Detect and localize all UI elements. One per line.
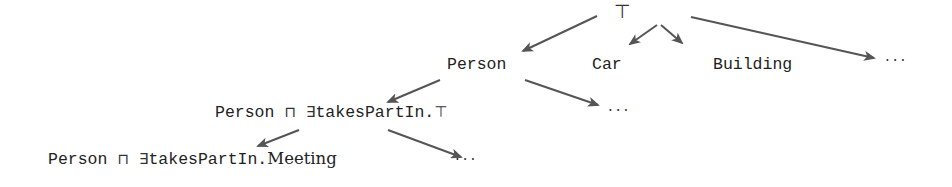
node-person: Person <box>447 57 506 74</box>
refinement-tree-diagram: ⊤ Person Car Building ··· Person ⊓ ∃take… <box>0 0 952 187</box>
edge-top-to-car <box>630 25 657 44</box>
edge-person-to-ellipsis <box>525 80 598 105</box>
concept-person: Person <box>48 150 107 169</box>
edge-exists-top-to-meeting <box>258 130 299 146</box>
sqcap-symbol: ⊓ <box>117 150 129 168</box>
concept-person: Person <box>215 103 274 122</box>
top-symbol: ⊤ <box>434 103 447 121</box>
node-person-exists-takespartin-top: Person ⊓ ∃takesPartIn.⊤ <box>215 105 447 122</box>
edge-person-to-exists-top <box>388 80 440 102</box>
role-takespartin: takesPartIn. <box>315 103 434 122</box>
exists-symbol: ∃ <box>139 150 148 168</box>
top-concept-node: ⊤ <box>614 2 631 21</box>
edge-exists-top-to-ellipsis <box>388 130 461 157</box>
edge-top-to-ellipsis <box>691 17 874 58</box>
role-takespartin: takesPartIn. <box>148 150 267 169</box>
node-ellipsis-level3: ··· <box>455 153 478 168</box>
node-car: Car <box>592 57 622 74</box>
node-ellipsis-level2: ··· <box>608 104 631 119</box>
sqcap-symbol: ⊓ <box>284 103 296 121</box>
edge-top-to-person <box>523 16 597 51</box>
edge-top-to-building <box>661 25 682 43</box>
concept-meeting: Meeting <box>267 149 337 168</box>
node-person-exists-takespartin-meeting: Person ⊓ ∃takesPartIn.Meeting <box>48 151 337 169</box>
node-building: Building <box>713 57 792 74</box>
node-ellipsis-level1: ··· <box>885 54 908 69</box>
exists-symbol: ∃ <box>306 103 315 121</box>
